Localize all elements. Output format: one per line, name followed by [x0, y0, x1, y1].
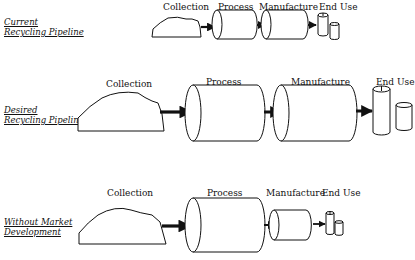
- process-cylinder-icon: [185, 85, 265, 141]
- manufacture-cylinder-icon: [269, 210, 311, 240]
- end-use-containers-icon: [373, 86, 412, 135]
- process-cylinder-icon: [212, 10, 257, 39]
- collection-pile-icon: [78, 92, 164, 131]
- end-use-containers-icon: [318, 13, 339, 40]
- manufacture-cylinder-icon: [273, 85, 357, 141]
- process-cylinder-icon: [185, 198, 265, 252]
- collection-pile-icon: [79, 208, 166, 244]
- end-use-containers-icon: [326, 211, 343, 235]
- collection-pile-icon: [152, 17, 201, 37]
- pipeline-diagram: [0, 0, 415, 260]
- manufacture-cylinder-icon: [261, 10, 308, 39]
